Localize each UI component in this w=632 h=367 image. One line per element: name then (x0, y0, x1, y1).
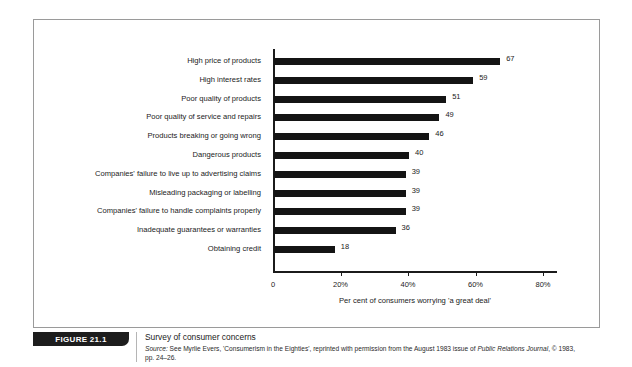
caption-divider (136, 332, 137, 362)
bar (274, 152, 409, 159)
figure-source: Source: See Myrlie Evers, 'Consumerism i… (145, 344, 632, 362)
bar (274, 114, 439, 121)
x-axis-tick-label: 60% (468, 279, 483, 290)
caption-text: Survey of consumer concerns Source: See … (145, 332, 632, 362)
bar (274, 77, 473, 84)
source-text-part1: See Myrlie Evers, 'Consumerism in the Ei… (168, 345, 478, 352)
x-axis-tick (341, 271, 342, 276)
bar-value-label: 36 (402, 222, 410, 234)
x-axis-tick (543, 271, 544, 276)
category-label: Products breaking or going wrong (31, 131, 261, 141)
bar-value-label: 39 (412, 203, 420, 215)
category-label: Companies' failure to live up to adverti… (31, 169, 261, 179)
x-axis-tick-label: 80% (535, 279, 550, 290)
category-label: Obtaining credit (31, 244, 261, 254)
category-label: Inadequate guarantees or warranties (31, 225, 261, 235)
category-label: Poor quality of service and repairs (31, 112, 261, 122)
x-axis-tick (476, 271, 477, 276)
x-axis-tick (408, 271, 409, 276)
category-axis-labels: High price of productsHigh interest rate… (34, 49, 267, 271)
category-label: Dangerous products (31, 150, 261, 160)
x-axis-line (273, 271, 557, 273)
x-axis-tick-label: 0 (271, 279, 275, 290)
category-label: Companies' failure to handle complaints … (31, 206, 261, 216)
bar-value-label: 46 (435, 128, 443, 140)
category-label: Misleading packaging or labelling (31, 188, 261, 198)
bar (274, 208, 406, 215)
bar-value-label: 39 (412, 166, 420, 178)
bar (274, 58, 500, 65)
category-label: High price of products (31, 56, 261, 66)
bar (274, 171, 406, 178)
bar (274, 227, 396, 234)
bar (274, 190, 406, 197)
source-label: Source: (145, 345, 168, 352)
plot-area: 6759514946403939393618 020%40%60%80% Per… (273, 49, 555, 271)
source-text-part2: , © 1983, (548, 345, 575, 352)
bar (274, 246, 335, 253)
x-axis-tick-label: 40% (400, 279, 415, 290)
bar-value-label: 39 (412, 185, 420, 197)
x-axis-tick-label: 20% (333, 279, 348, 290)
figure-caption-block: FIGURE 21.1 Survey of consumer concerns … (33, 332, 613, 366)
source-pages: pp. 24–26. (145, 354, 176, 361)
bar-value-label: 59 (479, 72, 487, 84)
bar-value-label: 49 (445, 109, 453, 121)
source-journal-name: Public Relations Journal (477, 345, 548, 352)
bar (274, 133, 429, 140)
bar-value-label: 51 (452, 91, 460, 103)
chart-frame: High price of productsHigh interest rate… (33, 19, 600, 328)
figure-title: Survey of consumer concerns (145, 332, 632, 343)
figure-number-badge: FIGURE 21.1 (33, 332, 129, 346)
bar-value-label: 67 (506, 53, 514, 65)
figure-container: High price of productsHigh interest rate… (0, 0, 632, 367)
category-label: High interest rates (31, 75, 261, 85)
bar-value-label: 18 (341, 241, 349, 253)
bar-value-label: 40 (415, 147, 423, 159)
x-axis-title: Per cent of consumers worrying 'a great … (273, 296, 557, 305)
bar (274, 96, 446, 103)
category-label: Poor quality of products (31, 94, 261, 104)
